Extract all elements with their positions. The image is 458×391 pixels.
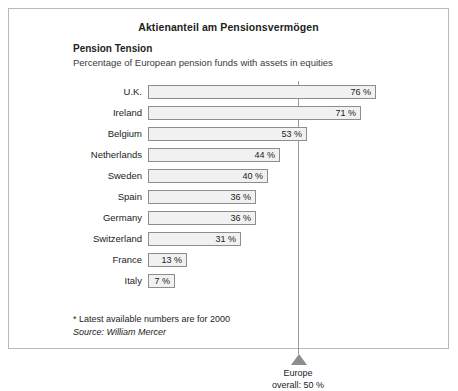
bar-value-label: 40 %: [242, 170, 263, 182]
bar-value-label: 71 %: [335, 107, 356, 119]
bar-row: U.K.76 %: [9, 85, 450, 99]
bar: 71 %: [148, 106, 361, 120]
bar-value-label: 36 %: [230, 191, 251, 203]
footnote-block: * Latest available numbers are for 2000 …: [73, 313, 230, 338]
bar: 13 %: [148, 253, 187, 267]
bar-value-label: 44 %: [254, 149, 275, 161]
bar-row: Spain36 %: [9, 190, 450, 204]
bar-value-label: 36 %: [230, 212, 251, 224]
bar-value-label: 7 %: [154, 275, 170, 287]
bar-category-label: Netherlands: [22, 148, 142, 162]
bar-category-label: Germany: [22, 211, 142, 225]
bar-category-label: Switzerland: [22, 232, 142, 246]
bar: 76 %: [148, 85, 376, 99]
chart-frame: Aktienanteil am Pensionsvermögen Pension…: [8, 8, 449, 349]
bar-row: Sweden40 %: [9, 169, 450, 183]
bar-row: France13 %: [9, 253, 450, 267]
bar-category-label: France: [22, 253, 142, 267]
source-text: Source: William Mercer: [73, 326, 230, 339]
bar-row: Ireland71 %: [9, 106, 450, 120]
bar-value-label: 13 %: [161, 254, 182, 266]
reference-caption-line2: overall: 50 %: [248, 380, 348, 391]
bar-category-label: Italy: [22, 274, 142, 288]
bar-row: Germany36 %: [9, 211, 450, 225]
bar-row: Switzerland31 %: [9, 232, 450, 246]
bar: 36 %: [148, 211, 256, 225]
bar: 7 %: [148, 274, 175, 288]
reference-caption-line1: Europe: [248, 368, 348, 380]
bar-category-label: U.K.: [22, 85, 142, 99]
bar-category-label: Spain: [22, 190, 142, 204]
reference-caption: Europe overall: 50 %: [248, 368, 348, 391]
bar-row: Netherlands44 %: [9, 148, 450, 162]
bar-category-label: Sweden: [22, 169, 142, 183]
bar-row: Belgium53 %: [9, 127, 450, 141]
bar: 53 %: [148, 127, 307, 141]
bar-row: Italy7 %: [9, 274, 450, 288]
bar-category-label: Belgium: [22, 127, 142, 141]
bar-value-label: 53 %: [281, 128, 302, 140]
bar-value-label: 76 %: [350, 86, 371, 98]
reference-marker-triangle-icon: [291, 354, 307, 365]
bar: 36 %: [148, 190, 256, 204]
bar-category-label: Ireland: [22, 106, 142, 120]
bar: 44 %: [148, 148, 280, 162]
bar-value-label: 31 %: [215, 233, 236, 245]
bar: 40 %: [148, 169, 268, 183]
footnote-text: * Latest available numbers are for 2000: [73, 313, 230, 326]
bar: 31 %: [148, 232, 241, 246]
bar-chart-plot: Europe overall: 50 % U.K.76 %Ireland71 %…: [9, 9, 450, 350]
